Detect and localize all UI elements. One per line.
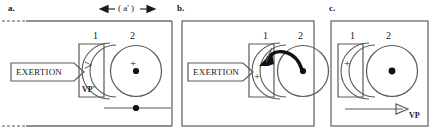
panel-c-graphic [0,0,434,133]
panel-c-vp-arrow-icon [345,104,408,114]
panel-c-label-1: 1 [350,31,355,41]
panel-c-circle-2 [367,46,418,97]
panel-c-label-2: 2 [386,31,391,41]
panel-c-vp-label: VP [409,112,420,120]
figure-root: a. ( a' ) b. c. [0,0,434,133]
panel-c-arc-set [341,43,375,99]
panel-c-box-1 [338,44,363,97]
panel-c-plus-symbol: + [344,58,350,69]
panel-c-center-dot [389,68,396,75]
